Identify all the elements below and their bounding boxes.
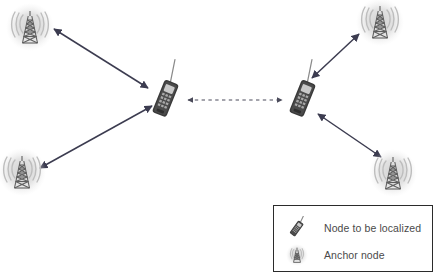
anchor-node-group: [0, 0, 417, 197]
anchor-top-right[interactable]: [356, 0, 404, 46]
target-node-group: [152, 59, 324, 118]
legend-label-anchor-node: Anchor node: [324, 249, 385, 261]
link-node-left-anchor-top-left: [54, 29, 148, 88]
anchor-bottom-left[interactable]: [0, 148, 46, 196]
link-group: [40, 29, 381, 168]
cell-phone-icon: [284, 216, 310, 240]
anchor-bottom-right[interactable]: [369, 149, 417, 197]
link-node-left-anchor-bottom-left: [40, 106, 152, 168]
anchor-top-left[interactable]: [6, 3, 54, 51]
legend-item-anchor-node: Anchor node: [284, 243, 385, 267]
node-left[interactable]: [152, 59, 187, 118]
legend-label-node-to-be-localized: Node to be localized: [324, 222, 421, 234]
legend-item-node-to-be-localized: Node to be localized: [284, 216, 421, 240]
radio-tower-icon: [284, 243, 310, 267]
link-node-right-anchor-bottom-right: [318, 114, 381, 157]
legend: Node to be localized: [273, 205, 433, 272]
node-right[interactable]: [289, 59, 324, 118]
link-node-right-anchor-top-right: [312, 34, 359, 78]
